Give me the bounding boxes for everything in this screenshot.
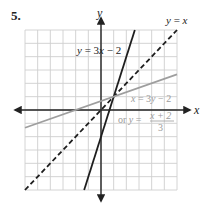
label-eq: = 3: [82, 44, 100, 56]
label-line-3x-minus-2: y = 3x − 2: [76, 44, 121, 56]
fraction-numerator: x + 2: [149, 110, 171, 121]
fraction-denominator: 3: [158, 122, 163, 133]
label-eq: =: [133, 114, 142, 125]
label-identity-line: y = x: [165, 14, 188, 26]
label-inverse-alt: or y =: [118, 114, 142, 125]
label-rest: − 2: [104, 44, 121, 56]
problem-number: 5.: [11, 8, 21, 23]
label-rest: − 2: [156, 93, 172, 104]
label-inverse-line: x = 3y − 2: [130, 93, 171, 104]
y-axis-label: y: [96, 6, 103, 20]
label-or: or: [118, 114, 129, 125]
label-var-x: x: [182, 14, 188, 26]
numerator-text: x + 2: [149, 110, 171, 121]
label-eq: = 3: [135, 93, 151, 104]
label-eq: =: [171, 14, 183, 26]
x-axis-label: x: [193, 103, 200, 117]
graph: 5. y x y = 3x − 2 y = x x = 3y − 2 or y …: [0, 0, 209, 205]
